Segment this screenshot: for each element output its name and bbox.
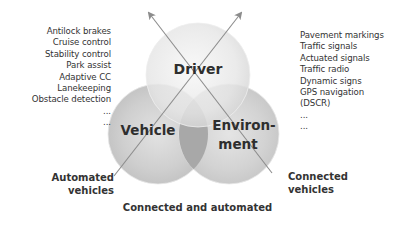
list-item: Park assist [32,60,111,71]
automated-label-line2: vehicles [52,184,114,197]
list-item: Actuated signals [300,53,384,64]
connected-label-line1: Connected [288,170,348,183]
connected-vehicles-label: Connected vehicles [288,170,348,196]
list-item: Lanekeeping [32,83,111,94]
list-item: ... [300,121,384,132]
automated-label-line1: Automated [52,171,114,184]
list-item: ... [300,110,384,121]
list-item: Adaptive CC [32,72,111,83]
list-item: Traffic radio [300,64,384,75]
list-item: ... [32,117,111,128]
list-item: (DSCR) [300,98,384,109]
list-item: Pavement markings [300,30,384,41]
automated-vehicles-label: Automated vehicles [52,171,114,197]
vehicle-systems-list: Antilock brakes Cruise control Stability… [32,26,111,129]
connected-label-line2: vehicles [288,183,348,196]
vehicle-label: Vehicle [121,122,176,138]
list-item: Dynamic signs [300,76,384,87]
list-item: ... [32,106,111,117]
environment-systems-list: Pavement markings Traffic signals Actuat… [300,30,384,133]
list-item: Obstacle detection [32,94,111,105]
connected-and-automated-label: Connected and automated [0,201,395,214]
environment-label-line2: ment [218,136,258,152]
environment-label-line1: Environ- [212,117,275,133]
list-item: Cruise control [32,37,111,48]
driver-label: Driver [174,61,223,77]
list-item: Antilock brakes [32,26,111,37]
list-item: Traffic signals [300,41,384,52]
list-item: Stability control [32,49,111,60]
list-item: GPS navigation [300,87,384,98]
